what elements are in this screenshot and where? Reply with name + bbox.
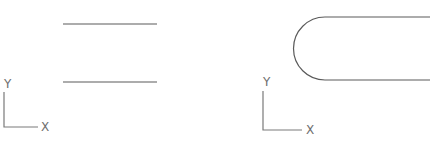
fillet-arc: [294, 17, 325, 80]
cad-diagram-canvas: Y X Y X: [0, 0, 437, 145]
ucs-axes-icon: [263, 91, 302, 130]
ucs-axes-icon: [4, 92, 38, 127]
ucs-icon: Y X: [3, 77, 49, 134]
y-axis-label: Y: [262, 75, 271, 89]
panel-filleted-lines: Y X: [262, 17, 430, 137]
x-axis-label: X: [41, 120, 49, 134]
ucs-icon: Y X: [262, 75, 314, 137]
panel-parallel-lines: Y X: [3, 24, 157, 134]
y-axis-label: Y: [3, 77, 12, 91]
x-axis-label: X: [306, 123, 314, 137]
